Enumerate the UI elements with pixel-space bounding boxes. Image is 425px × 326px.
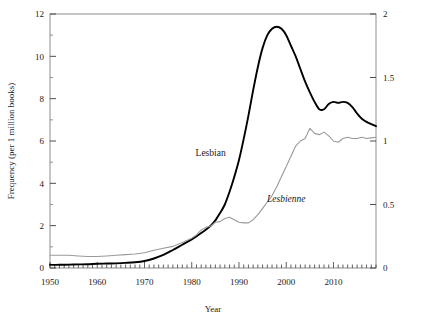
y-left-tick-label: 4	[40, 179, 45, 189]
x-tick-label: 2010	[324, 277, 343, 287]
y-right-tick-label: 0	[383, 263, 388, 273]
y-right-tick-label: 1.5	[383, 73, 395, 83]
x-tick-label: 2000	[277, 277, 296, 287]
x-tick-label: 1990	[230, 277, 249, 287]
y-left-tick-label: 12	[35, 9, 44, 19]
chart-container: 195019601970198019902000201002468101200.…	[0, 0, 425, 326]
y-left-tick-label: 2	[40, 221, 45, 231]
series-annotation-lesbian: Lesbian	[196, 148, 226, 158]
x-tick-label: 1980	[183, 277, 202, 287]
y-left-tick-label: 8	[40, 94, 45, 104]
y-right-tick-label: 0.5	[383, 200, 395, 210]
y-left-tick-label: 0	[40, 263, 45, 273]
frequency-line-chart: 195019601970198019902000201002468101200.…	[0, 0, 425, 326]
y-right-tick-label: 1	[383, 136, 388, 146]
plot-frame	[50, 14, 376, 268]
x-tick-label: 1960	[88, 277, 107, 287]
y-right-tick-label: 2	[383, 9, 388, 19]
series-annotation-lesbienne: Lesbienne	[266, 194, 306, 204]
x-tick-label: 1970	[135, 277, 154, 287]
y-left-tick-label: 6	[40, 136, 45, 146]
y-left-tick-label: 10	[35, 52, 45, 62]
x-axis-title: Year	[205, 304, 222, 314]
y-axis-title: Frequency (per 1 million books)	[6, 83, 16, 199]
x-tick-label: 1950	[41, 277, 60, 287]
series-line-lesbian	[50, 27, 376, 265]
